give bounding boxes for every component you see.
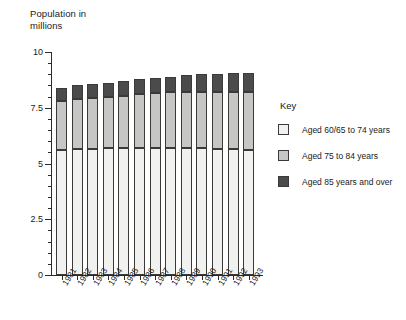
legend-item: Aged 60/65 to 74 years [278, 124, 402, 135]
bar-segment [150, 93, 161, 148]
legend-label: Aged 60/65 to 74 years [302, 125, 390, 135]
bar-1982 [72, 85, 83, 275]
y-tick-minor [48, 63, 51, 64]
legend-swatch-icon [278, 176, 289, 187]
y-tick-minor [48, 74, 51, 75]
legend-title: Key [278, 100, 402, 111]
y-tick-minor [48, 186, 51, 187]
y-tick-minor [48, 130, 51, 131]
y-tick-minor [48, 230, 51, 231]
bar-segment [165, 77, 176, 93]
bar-segment [228, 92, 239, 149]
legend-label: Aged 75 to 84 years [302, 151, 378, 161]
bar-1986 [134, 79, 145, 275]
bar-1987 [150, 78, 161, 275]
y-tick-minor [48, 175, 51, 176]
bar-segment [87, 149, 98, 275]
y-axis-line [51, 52, 52, 275]
y-tick-minor [48, 141, 51, 142]
bar-segment [103, 97, 114, 148]
legend-item-group: Aged 60/65 to 74 yearsAged 75 to 84 year… [278, 124, 402, 187]
legend-item: Aged 85 years and over [278, 176, 402, 187]
bar-segment [56, 88, 67, 101]
y-tick-label: 0 [38, 270, 43, 280]
bar-segment [228, 73, 239, 92]
bar-segment [118, 148, 129, 275]
legend-label: Aged 85 years and over [302, 177, 392, 187]
bar-segment [165, 92, 176, 148]
bar-1993 [243, 73, 254, 275]
y-tick-minor [48, 208, 51, 209]
bar-segment [196, 148, 207, 275]
bar-segment [56, 101, 67, 150]
y-axis-title-line1: Population in [30, 8, 86, 19]
bar-segment [196, 74, 207, 92]
y-tick-minor [48, 242, 51, 243]
bar-segment [87, 98, 98, 149]
bar-segment [212, 149, 223, 275]
bar-segment [196, 92, 207, 148]
y-tick-minor [48, 119, 51, 120]
y-tick-major [45, 52, 51, 53]
y-tick-minor [48, 253, 51, 254]
bar-1990 [196, 74, 207, 275]
bar-segment [118, 96, 129, 148]
bar-segment [134, 79, 145, 95]
legend-item: Aged 75 to 84 years [278, 150, 402, 161]
bar-segment [72, 149, 83, 275]
bar-segment [150, 148, 161, 275]
bar-1984 [103, 83, 114, 275]
y-tick-minor [48, 264, 51, 265]
y-tick-major [45, 108, 51, 109]
bar-1983 [87, 84, 98, 275]
plot-area: 02.557.510 [51, 52, 261, 275]
legend-swatch-icon [278, 124, 289, 135]
bar-segment [243, 73, 254, 92]
bar-segment [56, 150, 67, 275]
bar-segment [212, 74, 223, 92]
y-tick-major [45, 275, 51, 276]
bar-segment [181, 92, 192, 148]
y-tick-label: 10 [33, 47, 43, 57]
bar-segment [72, 99, 83, 149]
bar-segment [212, 92, 223, 149]
y-tick-major [45, 164, 51, 165]
bar-1981 [56, 88, 67, 275]
bar-segment [103, 148, 114, 275]
bar-1992 [228, 73, 239, 275]
y-tick-minor [48, 152, 51, 153]
bar-segment [243, 150, 254, 275]
bar-segment [181, 148, 192, 275]
y-tick-major [45, 219, 51, 220]
bar-segment [134, 94, 145, 148]
bar-1989 [181, 75, 192, 275]
bar-segment [228, 149, 239, 275]
y-tick-label: 2.5 [30, 214, 43, 224]
legend-swatch-icon [278, 150, 289, 161]
bar-1988 [165, 77, 176, 275]
bar-segment [87, 84, 98, 97]
bar-segment [165, 148, 176, 275]
bar-segment [243, 92, 254, 150]
y-axis-title-line2: millions [30, 20, 150, 32]
bar-segment [118, 81, 129, 95]
y-tick-minor [48, 85, 51, 86]
y-tick-minor [48, 197, 51, 198]
bar-segment [181, 75, 192, 92]
y-axis-title: Population in millions [30, 8, 150, 31]
bar-1991 [212, 74, 223, 275]
y-tick-minor [48, 97, 51, 98]
bar-1985 [118, 81, 129, 275]
bar-segment [134, 148, 145, 275]
y-tick-label: 5 [38, 159, 43, 169]
bar-segment [150, 78, 161, 94]
y-tick-label: 7.5 [30, 103, 43, 113]
population-stacked-bar-chart: Population in millions 02.557.510 198119… [0, 0, 406, 320]
bar-segment [103, 83, 114, 96]
legend: Key Aged 60/65 to 74 yearsAged 75 to 84 … [278, 100, 402, 202]
bar-segment [72, 85, 83, 98]
